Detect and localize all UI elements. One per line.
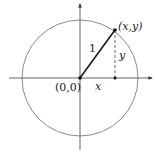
x-leg-label: x [95,80,102,93]
circle-point [113,28,117,32]
unit-circle-diagram: (0,0) (x,y) 1 x y [0,0,155,158]
origin-label: (0,0) [55,81,81,94]
foot-point [114,77,117,80]
point-label: (x,y) [118,20,143,33]
origin-point [78,76,82,80]
radius-line [80,30,115,78]
y-leg-label: y [118,49,126,62]
radius-label: 1 [89,42,96,55]
